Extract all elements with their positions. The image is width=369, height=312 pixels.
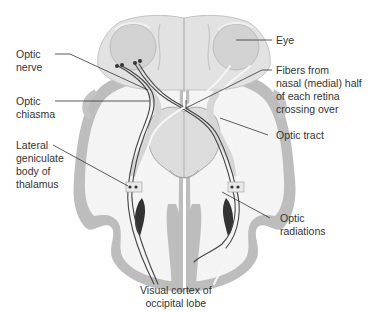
left-lgn (126, 182, 142, 192)
left-eye (110, 24, 156, 70)
label-eye: Eye (276, 34, 294, 47)
label-lateral-geniculate-body: Lateral geniculate body of thalamus (16, 139, 64, 191)
right-lgn (228, 182, 244, 192)
label-fibers-crossing: Fibers from nasal (medial) half of each … (276, 64, 362, 116)
right-eye (213, 24, 259, 70)
visual-pathway-diagram: Optic nerve Optic chiasma Lateral genicu… (0, 0, 369, 312)
label-optic-chiasma: Optic chiasma (16, 95, 55, 121)
label-optic-radiations: Optic radiations (280, 212, 326, 238)
label-optic-tract: Optic tract (276, 129, 324, 142)
label-optic-nerve: Optic nerve (16, 48, 42, 74)
label-visual-cortex: Visual cortex of occipital lobe (140, 284, 212, 310)
